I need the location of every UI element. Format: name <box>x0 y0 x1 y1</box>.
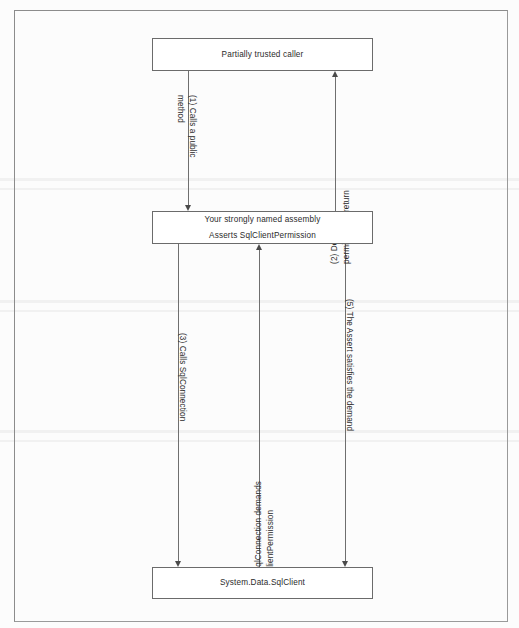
node-assembly-label-2: Asserts SqlClientPermission <box>209 230 316 241</box>
edge-label-1-line-1: (1) Calls a public <box>186 95 198 158</box>
node-strongly-named-assembly: Your strongly named assembly Asserts Sql… <box>152 211 373 244</box>
node-sqlclient-label: System.Data.SqlClient <box>220 577 305 588</box>
node-assembly-label-1: Your strongly named assembly <box>205 214 321 225</box>
node-system-data-sqlclient: System.Data.SqlClient <box>152 567 373 599</box>
arrowhead-up-2 <box>332 71 338 77</box>
arrowhead-up-4 <box>256 244 262 250</box>
node-partially-trusted-caller: Partially trusted caller <box>152 38 373 71</box>
edge-label-5: (5) The Assert satisfies the demand <box>343 299 355 431</box>
edge-label-5-line-1: (5) The Assert satisfies the demand <box>343 299 355 431</box>
edge-label-3-line-1: (3) Calls SqlConnection <box>176 333 188 421</box>
edge-label-1: (1) Calls a public method <box>173 95 198 158</box>
node-caller-label: Partially trusted caller <box>222 49 304 60</box>
diagram-canvas: (1) Calls a public method (2) Demand a p… <box>0 0 519 628</box>
edge-label-1-line-2: method <box>173 95 185 158</box>
edge-label-3: (3) Calls SqlConnection <box>176 333 188 421</box>
